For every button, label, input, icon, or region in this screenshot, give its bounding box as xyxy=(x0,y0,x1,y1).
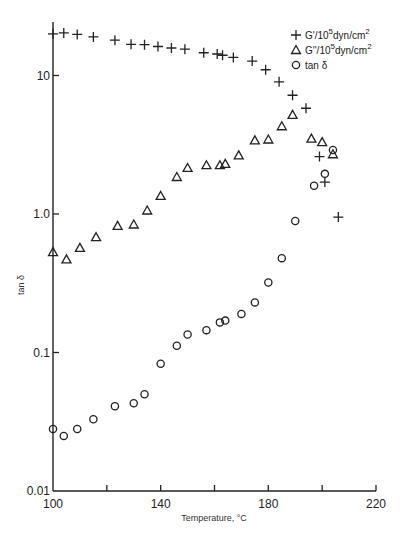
triangle-point xyxy=(183,163,192,171)
x-ticks: 100140180220 xyxy=(43,485,386,511)
plus-point xyxy=(126,39,136,49)
triangle-point xyxy=(113,221,122,229)
legend-triangle-icon xyxy=(292,46,301,54)
legend-circle-icon xyxy=(292,61,299,68)
plus-point xyxy=(228,52,238,62)
triangle-point xyxy=(92,233,101,241)
triangle-point xyxy=(277,122,286,130)
x-tick-label: 220 xyxy=(366,497,386,511)
series-circle xyxy=(49,146,336,439)
plus-point xyxy=(314,152,324,162)
plus-point xyxy=(218,50,228,60)
plus-point xyxy=(140,40,150,50)
y-tick-label: 1.0 xyxy=(33,207,50,221)
triangle-point xyxy=(288,110,297,118)
y-ticks: 0.010.11.010 xyxy=(27,69,59,499)
circle-point xyxy=(173,342,180,349)
plus-point xyxy=(72,29,82,39)
circle-point xyxy=(130,400,137,407)
circle-point xyxy=(251,299,258,306)
triangle-point xyxy=(129,220,138,228)
plus-point xyxy=(166,43,176,53)
triangle-point xyxy=(318,138,327,146)
triangle-point xyxy=(172,172,181,180)
plus-point xyxy=(153,41,163,51)
triangle-point xyxy=(62,255,71,263)
legend-plus-icon xyxy=(291,30,301,40)
plus-point xyxy=(261,65,271,75)
circle-point xyxy=(157,360,164,367)
plus-point xyxy=(88,32,98,42)
chart-canvas: 100140180220 0.010.11.010 Temperature, °… xyxy=(0,0,404,539)
y-tick-label: 0.01 xyxy=(27,484,51,498)
legend-label: G''/105dyn/cm2 xyxy=(305,42,372,56)
circle-point xyxy=(141,391,148,398)
plus-point xyxy=(288,90,298,100)
triangle-point xyxy=(307,134,316,142)
circle-point xyxy=(60,432,67,439)
plus-point xyxy=(48,29,58,39)
plus-point xyxy=(333,212,343,222)
circle-point xyxy=(310,182,317,189)
plus-point xyxy=(274,77,284,87)
circle-point xyxy=(203,327,210,334)
plus-point xyxy=(59,28,69,38)
legend-label: G'/105dyn/cm2 xyxy=(305,27,370,41)
y-axis-title: tan δ xyxy=(16,275,26,295)
circle-point xyxy=(278,255,285,262)
circle-point xyxy=(238,310,245,317)
plus-point xyxy=(247,56,257,66)
triangle-point xyxy=(234,151,243,159)
axes: 100140180220 0.010.11.010 xyxy=(27,22,387,511)
triangle-point xyxy=(264,135,273,143)
plus-point xyxy=(110,35,120,45)
triangle-point xyxy=(156,191,165,199)
circle-point xyxy=(74,425,81,432)
circle-point xyxy=(90,416,97,423)
series-triangle xyxy=(49,110,338,263)
plus-point xyxy=(199,48,209,58)
series-plus xyxy=(48,28,343,222)
legend: G'/105dyn/cm2G''/105dyn/cm2tan δ xyxy=(291,27,372,71)
legend-label: tan δ xyxy=(305,60,328,71)
x-tick-label: 100 xyxy=(43,497,63,511)
plus-point xyxy=(301,103,311,113)
triangle-point xyxy=(250,136,259,144)
circle-point xyxy=(292,217,299,224)
y-tick-label: 0.1 xyxy=(33,346,50,360)
circle-point xyxy=(321,170,328,177)
x-axis-title: Temperature, °C xyxy=(181,513,247,523)
triangle-point xyxy=(75,243,84,251)
y-tick-label: 10 xyxy=(37,69,51,83)
plus-point xyxy=(180,44,190,54)
plus-point xyxy=(212,49,222,59)
x-tick-label: 140 xyxy=(151,497,171,511)
triangle-point xyxy=(143,206,152,214)
triangle-point xyxy=(202,161,211,169)
circle-point xyxy=(111,403,118,410)
circle-point xyxy=(184,331,191,338)
circle-point xyxy=(265,279,272,286)
x-tick-label: 180 xyxy=(258,497,278,511)
data-points xyxy=(48,28,343,440)
plus-point xyxy=(320,177,330,187)
